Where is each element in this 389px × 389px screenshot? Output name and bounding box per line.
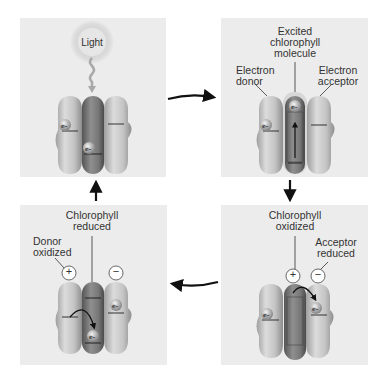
- electron-label: e-: [61, 120, 67, 131]
- light-label: Light: [79, 37, 105, 48]
- plus-sign: +: [64, 266, 74, 277]
- cycle-arrow-left: [174, 282, 218, 286]
- acceptor-reduced-label: Acceptor reduced: [310, 237, 362, 259]
- cycle-arrow-right: [168, 95, 212, 99]
- minus-sign: −: [111, 266, 121, 277]
- plus-sign: +: [288, 269, 298, 280]
- label-line: donor: [236, 76, 280, 87]
- chlorophyll-protein: [82, 96, 104, 174]
- electron-label: e-: [262, 120, 268, 131]
- label-line: molecule: [270, 48, 320, 59]
- label-line: reduced: [310, 248, 362, 259]
- minus-sign: −: [313, 269, 323, 280]
- electron-label: e-: [89, 331, 95, 342]
- chlorophyll-reduced-label: Chlorophyll reduced: [62, 210, 122, 232]
- electron-donor-protein: [56, 96, 83, 174]
- label-line: oxidized: [33, 247, 73, 258]
- electron-label: e-: [291, 101, 297, 112]
- excited-chlorophyll-label: Excited chlorophyll molecule: [270, 26, 320, 59]
- electron-acceptor-protein: [104, 96, 132, 174]
- label-line: acceptor: [313, 76, 363, 87]
- chlorophyll-oxidized-label: Chlorophyll oxidized: [265, 210, 325, 232]
- photosystem-top-left: [56, 96, 132, 174]
- electron-donor-label: Electron donor: [236, 65, 280, 87]
- electron-label: e-: [312, 303, 318, 314]
- electron-label: e-: [85, 143, 91, 154]
- diagram-canvas: [0, 0, 389, 389]
- label-line: reduced: [62, 221, 122, 232]
- electron-label: e-: [263, 309, 269, 320]
- donor-oxidized-label: Donor oxidized: [33, 236, 73, 258]
- electron-label: e-: [112, 300, 118, 311]
- electron-acceptor-label: Electron acceptor: [313, 65, 363, 87]
- label-line: oxidized: [265, 221, 325, 232]
